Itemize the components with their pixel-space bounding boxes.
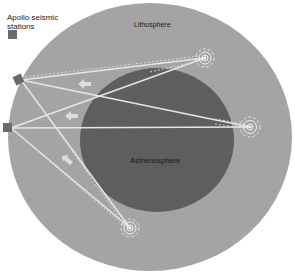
legend-station-swatch [8,30,17,39]
lithosphere-label: Lithosphere [134,21,171,28]
asthenosphere-label: Asthenosphere [130,156,180,165]
moon-seismic-diagram: Apollo seismic stations Lithosphere Asth… [0,0,295,280]
moon-cross-section [0,0,295,280]
seismic-station-lower [3,123,12,132]
legend-title: Apollo seismic stations [7,13,67,31]
ray-lower-to-quake-b [11,127,250,128]
